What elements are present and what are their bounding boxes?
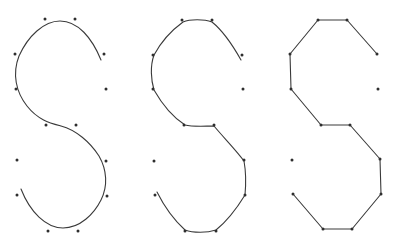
control-point xyxy=(105,160,108,163)
panel-polyline xyxy=(289,19,383,231)
control-point xyxy=(44,18,47,21)
control-point xyxy=(377,88,380,91)
control-point xyxy=(152,88,155,91)
control-point xyxy=(241,54,244,57)
tight-s-curve xyxy=(151,20,245,233)
control-point xyxy=(346,19,349,22)
control-point xyxy=(243,159,246,162)
panel-tight-spline xyxy=(151,19,246,233)
control-point xyxy=(15,88,18,91)
control-point xyxy=(317,19,320,22)
control-point xyxy=(103,53,106,56)
control-point xyxy=(380,193,383,196)
control-point xyxy=(106,195,109,198)
control-point xyxy=(14,53,17,56)
control-point xyxy=(351,228,354,231)
control-point xyxy=(291,159,294,162)
control-point xyxy=(289,53,292,56)
control-point xyxy=(181,19,184,22)
control-point xyxy=(105,88,108,91)
s-curve-diagram xyxy=(0,0,395,245)
smooth-s-curve xyxy=(16,21,106,228)
control-point xyxy=(213,124,216,127)
control-points xyxy=(14,18,109,233)
control-point xyxy=(215,230,218,233)
control-points xyxy=(152,19,247,233)
control-point xyxy=(244,194,247,197)
control-point xyxy=(322,228,325,231)
control-point xyxy=(379,158,382,161)
control-point xyxy=(152,54,155,57)
control-point xyxy=(75,124,78,127)
control-point xyxy=(376,53,379,56)
control-point xyxy=(320,124,323,127)
control-point xyxy=(183,124,186,127)
control-point xyxy=(349,124,352,127)
control-point xyxy=(242,88,245,91)
control-point xyxy=(16,159,19,162)
control-point xyxy=(184,230,187,233)
panel-smooth-spline xyxy=(14,18,109,233)
control-point xyxy=(154,194,157,197)
control-point xyxy=(16,194,19,197)
control-point xyxy=(74,18,77,21)
control-point xyxy=(77,230,80,233)
control-point xyxy=(47,230,50,233)
control-point xyxy=(290,88,293,91)
polyline-s-shape xyxy=(290,20,381,229)
control-point xyxy=(45,124,48,127)
control-point xyxy=(153,160,156,163)
control-point xyxy=(292,193,295,196)
control-point xyxy=(211,19,214,22)
